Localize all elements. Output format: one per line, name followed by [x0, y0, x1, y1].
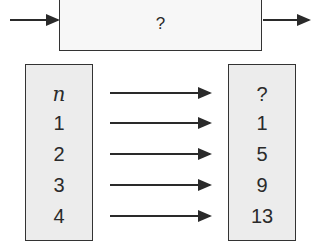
function-machine-box: ?	[59, 0, 262, 51]
output-value: 1	[229, 111, 295, 135]
output-arrow	[263, 19, 309, 21]
output-value: 13	[229, 204, 295, 228]
input-column: n 1 2 3 4	[25, 64, 93, 241]
input-value: 2	[26, 142, 92, 166]
input-header: n	[26, 82, 92, 106]
rule-label: ?	[60, 14, 261, 34]
mapping-arrow	[110, 184, 210, 186]
output-value: 5	[229, 142, 295, 166]
mapping-arrow	[110, 122, 210, 124]
output-column: ? 1 5 9 13	[228, 64, 296, 241]
mapping-arrow	[110, 153, 210, 155]
output-value: 9	[229, 173, 295, 197]
input-value: 3	[26, 173, 92, 197]
input-value: 4	[26, 204, 92, 228]
mapping-arrow	[110, 92, 210, 94]
input-value: 1	[26, 111, 92, 135]
input-arrow	[10, 19, 58, 21]
mapping-arrow	[110, 215, 210, 217]
output-header: ?	[229, 82, 295, 106]
